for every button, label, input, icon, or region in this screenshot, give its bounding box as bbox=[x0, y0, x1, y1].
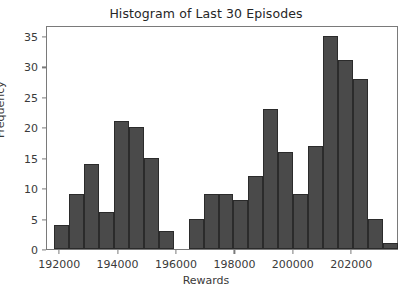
y-tick-label: 30 bbox=[24, 61, 38, 74]
histogram-bar bbox=[99, 212, 114, 249]
histogram-bar bbox=[248, 176, 263, 249]
histogram-bar bbox=[144, 158, 159, 249]
histogram-bar bbox=[233, 200, 248, 249]
x-tick-mark bbox=[234, 250, 235, 254]
x-tick-mark bbox=[175, 250, 176, 254]
histogram-bar bbox=[293, 194, 308, 249]
histogram-bar bbox=[323, 36, 338, 249]
y-axis: Frequency 05101520253035 bbox=[0, 0, 46, 291]
x-axis-label: Rewards bbox=[0, 274, 412, 287]
y-axis-label: Frequency bbox=[0, 81, 7, 138]
histogram-bar bbox=[383, 243, 398, 249]
chart-title: Histogram of Last 30 Episodes bbox=[0, 6, 412, 21]
x-tick-label: 194000 bbox=[97, 258, 139, 271]
x-tick-mark bbox=[292, 250, 293, 254]
y-tick-label: 10 bbox=[24, 183, 38, 196]
x-tick-label: 192000 bbox=[38, 258, 80, 271]
plot-frame bbox=[46, 26, 398, 250]
histogram-bar bbox=[69, 194, 84, 249]
plot-area bbox=[47, 27, 397, 249]
y-tick-label: 20 bbox=[24, 122, 38, 135]
histogram-bar bbox=[368, 219, 383, 249]
x-tick-mark bbox=[351, 250, 352, 254]
histogram-bar bbox=[84, 164, 99, 249]
x-axis: Rewards 19200019400019600019800020000020… bbox=[0, 250, 412, 291]
histogram-bar bbox=[278, 152, 293, 249]
histogram-bar bbox=[54, 225, 69, 249]
y-tick-label: 25 bbox=[24, 91, 38, 104]
histogram-bar bbox=[189, 219, 204, 249]
histogram-bar bbox=[353, 79, 368, 249]
histogram-bar bbox=[338, 60, 353, 249]
y-tick-label: 35 bbox=[24, 30, 38, 43]
x-tick-mark bbox=[117, 250, 118, 254]
histogram-bar bbox=[308, 146, 323, 249]
x-tick-mark bbox=[59, 250, 60, 254]
histogram-bar bbox=[159, 231, 174, 249]
histogram-bar bbox=[129, 127, 144, 249]
x-tick-label: 202000 bbox=[330, 258, 372, 271]
histogram-figure: Histogram of Last 30 Episodes Frequency … bbox=[0, 0, 412, 291]
histogram-bar bbox=[204, 194, 219, 249]
x-tick-label: 200000 bbox=[272, 258, 314, 271]
x-tick-label: 196000 bbox=[155, 258, 197, 271]
y-tick-label: 5 bbox=[31, 213, 38, 226]
histogram-bar bbox=[263, 109, 278, 249]
histogram-bar bbox=[114, 121, 129, 249]
y-tick-label: 15 bbox=[24, 152, 38, 165]
histogram-bar bbox=[219, 194, 234, 249]
x-tick-label: 198000 bbox=[213, 258, 255, 271]
